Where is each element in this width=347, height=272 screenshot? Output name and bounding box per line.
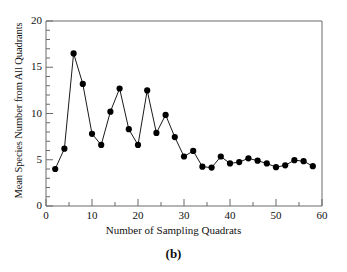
y-tick-label: 15 <box>18 61 42 72</box>
data-point <box>291 157 297 163</box>
data-point <box>89 131 95 137</box>
data-point <box>255 158 261 164</box>
data-point <box>282 162 288 168</box>
data-point <box>52 166 58 172</box>
data-point <box>80 81 86 87</box>
data-point <box>181 153 187 159</box>
plot-area <box>46 21 322 206</box>
data-point <box>209 165 215 171</box>
data-point <box>117 85 123 91</box>
data-point <box>218 153 224 159</box>
y-tick-label: 10 <box>18 108 42 119</box>
axis-lines <box>46 21 322 206</box>
data-point <box>310 163 316 169</box>
data-point <box>273 164 279 170</box>
data-point <box>227 160 233 166</box>
data-point <box>126 126 132 132</box>
chart-canvas <box>46 21 322 206</box>
x-tick-label: 10 <box>77 210 107 221</box>
data-point <box>144 87 150 93</box>
data-point <box>153 130 159 136</box>
data-point <box>245 155 251 161</box>
series-line <box>55 53 313 169</box>
data-point <box>172 134 178 140</box>
x-tick-label: 0 <box>31 210 61 221</box>
data-point <box>98 142 104 148</box>
data-point <box>163 112 169 118</box>
x-axis-title: Number of Sampling Quadrats <box>0 224 347 236</box>
y-tick-label: 5 <box>18 154 42 165</box>
figure-panel-b: Mean Species Number from All Quadrants 0… <box>0 0 347 272</box>
panel-caption: (b) <box>0 246 347 262</box>
x-tick-label: 30 <box>169 210 199 221</box>
x-tick-label: 50 <box>261 210 291 221</box>
x-tick-label: 60 <box>307 210 337 221</box>
y-tick-label: 20 <box>18 15 42 26</box>
y-axis-tick-labels: 05101520 <box>16 21 42 206</box>
data-point <box>264 160 270 166</box>
data-point <box>236 159 242 165</box>
data-point <box>107 109 113 115</box>
tick-marks <box>46 21 322 206</box>
data-point <box>71 50 77 56</box>
x-tick-label: 20 <box>123 210 153 221</box>
data-point <box>199 164 205 170</box>
data-point <box>190 148 196 154</box>
x-tick-label: 40 <box>215 210 245 221</box>
data-point <box>301 158 307 164</box>
x-axis-tick-labels: 0102030405060 <box>46 210 322 224</box>
series-markers <box>52 50 316 172</box>
data-point <box>61 146 67 152</box>
data-point <box>135 142 141 148</box>
